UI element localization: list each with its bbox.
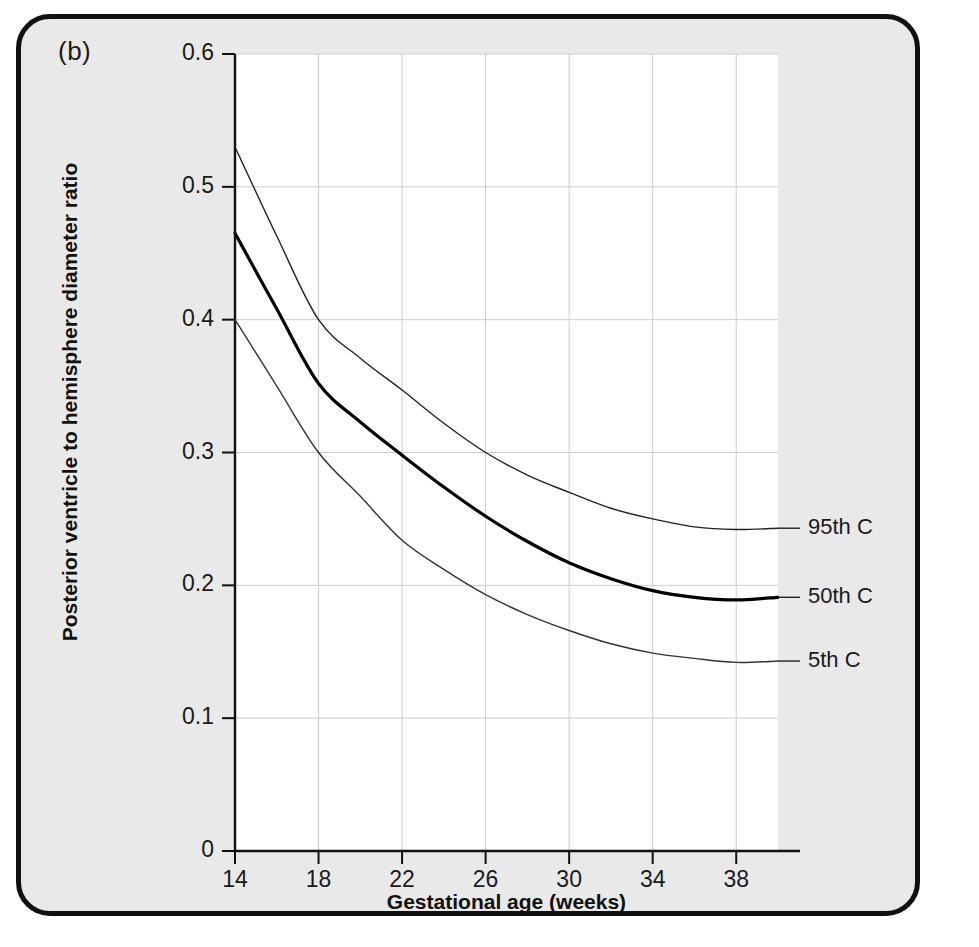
series-line-5th-c [235,320,778,663]
series-label: 95th C [808,514,873,540]
chart-canvas [0,0,979,947]
series-label: 5th C [808,647,861,673]
x-axis-tick-label: 38 [706,866,766,893]
x-axis-tick-label: 22 [372,866,432,893]
series-label: 50th C [808,583,873,609]
x-axis-tick-label: 30 [539,866,599,893]
y-axis-tick-label: 0.2 [152,570,214,597]
y-axis-tick-label: 0.6 [152,39,214,66]
x-axis-tick-label: 18 [289,866,349,893]
y-axis-title: Posterior ventricle to hemisphere diamet… [58,92,82,712]
y-axis-tick-label: 0 [152,836,214,863]
label-leader-lines [778,528,800,661]
tick-marks [222,54,736,864]
y-axis-tick-label: 0.4 [152,305,214,332]
y-axis-tick-label: 0.5 [152,172,214,199]
figure-root: (b) 00.10.20.30.40.50.6 14182226303438 P… [0,0,979,947]
x-axis-title-text: Gestational age (weeks) [235,890,778,914]
y-axis-title-text: Posterior ventricle to hemisphere diamet… [58,163,81,642]
series-line-95th-c [235,147,778,530]
gridlines-horizontal [235,54,778,718]
x-axis-tick-label: 14 [205,866,265,893]
x-axis-tick-label: 26 [456,866,516,893]
series-line-50th-c [235,233,778,600]
y-axis-tick-label: 0.3 [152,438,214,465]
y-axis-tick-label: 0.1 [152,703,214,730]
x-axis-tick-label: 34 [623,866,683,893]
